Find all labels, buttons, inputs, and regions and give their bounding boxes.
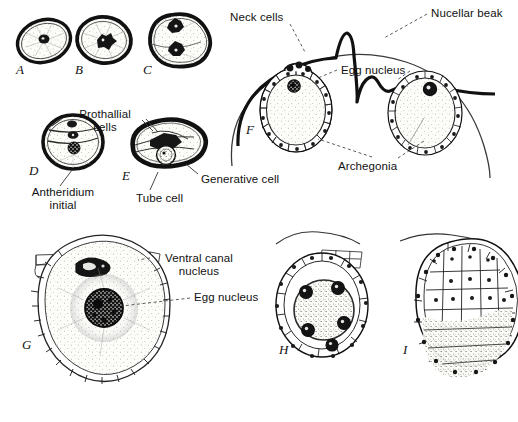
label-egg-nucleus-g: Egg nucleus bbox=[194, 291, 258, 304]
panel-letter-g: G bbox=[22, 337, 31, 353]
panel-letter-a: A bbox=[16, 62, 24, 78]
label-egg-nucleus-f: Egg nucleus bbox=[341, 64, 405, 77]
panel-f-ovule bbox=[231, 14, 495, 178]
ventral-canal-nucleus-shape bbox=[76, 258, 110, 276]
panel-letter-f: F bbox=[246, 122, 254, 138]
figure-root: Prothallial cells Antheridium initial Tu… bbox=[0, 0, 518, 422]
panel-letter-b: B bbox=[75, 62, 83, 78]
panel-h-embryo-sac bbox=[275, 232, 368, 358]
panel-b-pollen-grain bbox=[74, 13, 134, 66]
panel-letter-c: C bbox=[143, 62, 152, 78]
label-generative-cell: Generative cell bbox=[201, 173, 279, 186]
label-nucellar-beak: Nucellar beak bbox=[431, 7, 503, 20]
label-tube-cell: Tube cell bbox=[136, 192, 183, 205]
panel-c-pollen-grain bbox=[150, 14, 210, 67]
panel-letter-d: D bbox=[29, 163, 38, 179]
panel-a-pollen-grain bbox=[12, 13, 76, 70]
panel-letter-e: E bbox=[122, 168, 130, 184]
panel-letter-h: H bbox=[279, 342, 288, 358]
label-prothallial-cells: Prothallial cells bbox=[66, 108, 144, 133]
label-antheridium-initial: Antheridium initial bbox=[18, 186, 108, 211]
panel-letter-i: I bbox=[403, 342, 407, 358]
label-neck-cells: Neck cells bbox=[230, 11, 283, 24]
panel-i-proembryo bbox=[400, 234, 518, 378]
archegonium-left bbox=[260, 62, 332, 152]
label-archegonia: Archegonia bbox=[338, 160, 397, 173]
archegonium-right bbox=[388, 71, 462, 155]
label-ventral-canal-nucleus: Ventral canal nucleus bbox=[153, 252, 245, 277]
